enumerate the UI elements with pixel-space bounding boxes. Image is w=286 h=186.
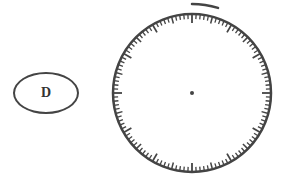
tick-mark [247,40,251,43]
tick-mark [253,54,261,59]
marker-arc [192,4,218,8]
tick-mark [184,14,185,19]
tick-mark [133,40,137,43]
tick-mark [114,105,119,106]
tick-mark [239,32,242,36]
tick-mark [235,153,238,157]
tick-mark [142,151,145,155]
center-dot [190,91,194,95]
dial-face [0,0,286,186]
tick-mark [184,167,185,172]
tick-mark [114,81,119,82]
tick-mark [139,148,142,152]
tick-mark [128,47,132,50]
tick-mark [180,15,181,20]
tick-mark [232,155,235,159]
tick-mark [211,17,213,24]
tick-mark [254,133,258,136]
tick-mark [149,155,152,159]
tick-mark [227,25,232,33]
tick-mark [253,128,261,133]
tick-mark [242,148,245,152]
tick-mark [265,81,270,82]
tick-mark [247,143,251,146]
tick-mark [250,43,254,46]
tick-mark [262,112,269,114]
tick-mark [239,151,242,155]
tick-mark [128,136,132,139]
tick-mark [131,43,135,46]
tick-mark [116,112,123,114]
tick-mark [252,47,256,50]
tick-mark [153,25,158,33]
tick-mark [124,54,132,59]
tick-mark [243,144,248,149]
tick-mark [262,73,269,75]
tick-mark [146,153,149,157]
tick-mark [146,29,149,33]
tick-mark [113,101,118,102]
tick-mark [200,14,201,19]
tick-mark [235,29,238,33]
tick-mark [227,154,232,162]
tick-mark [266,101,271,102]
tick-mark [172,163,174,170]
tick-mark [232,27,235,31]
tick-mark [254,50,258,53]
tick-mark [142,32,145,36]
tick-mark [113,85,118,86]
tick-mark [126,133,130,136]
tick-mark [126,50,130,53]
tick-mark [172,17,174,24]
tick-mark [180,166,181,171]
tick-mark [252,136,256,139]
tick-mark [124,128,132,133]
tick-mark [242,34,245,38]
tick-mark [200,167,201,172]
tick-mark [131,140,135,143]
tick-mark [136,144,141,149]
tick-mark [149,27,152,31]
tick-mark [243,37,248,42]
tick-mark [250,140,254,143]
tick-mark [265,105,270,106]
tick-mark [153,154,158,162]
tick-mark [136,37,141,42]
tick-mark [116,73,123,75]
tick-mark [211,163,213,170]
tick-mark [266,85,271,86]
tick-mark [133,143,137,146]
tick-mark [204,15,205,20]
tick-mark [139,34,142,38]
tick-mark [204,166,205,171]
